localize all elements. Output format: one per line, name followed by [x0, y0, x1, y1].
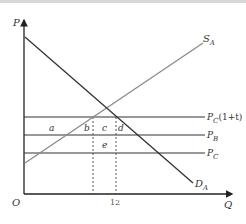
origin-label: O: [12, 197, 20, 208]
demand-curve: [25, 37, 193, 183]
area-c-label: c: [102, 123, 107, 133]
supply-label: SA: [203, 33, 215, 47]
area-e-label: e: [102, 140, 107, 150]
price-label-pc-1-t: PC(1+t): [206, 112, 242, 125]
cropped-text-strip: [0, 0, 246, 3]
x-tick-12: 12: [110, 198, 120, 207]
area-d-label: d: [118, 123, 124, 133]
price-label-pb: PB: [206, 130, 218, 143]
x-axis-label: Q: [224, 199, 232, 210]
demand-label: DA: [194, 178, 208, 192]
y-axis-label: P: [12, 17, 20, 28]
price-label-pc: PC: [206, 148, 219, 161]
area-b-label: b: [84, 123, 90, 133]
area-a-label: a: [49, 123, 54, 133]
tariff-diagram: P Q O 12 SA DA PC(1+t) PB PC a b c d e: [0, 0, 246, 224]
